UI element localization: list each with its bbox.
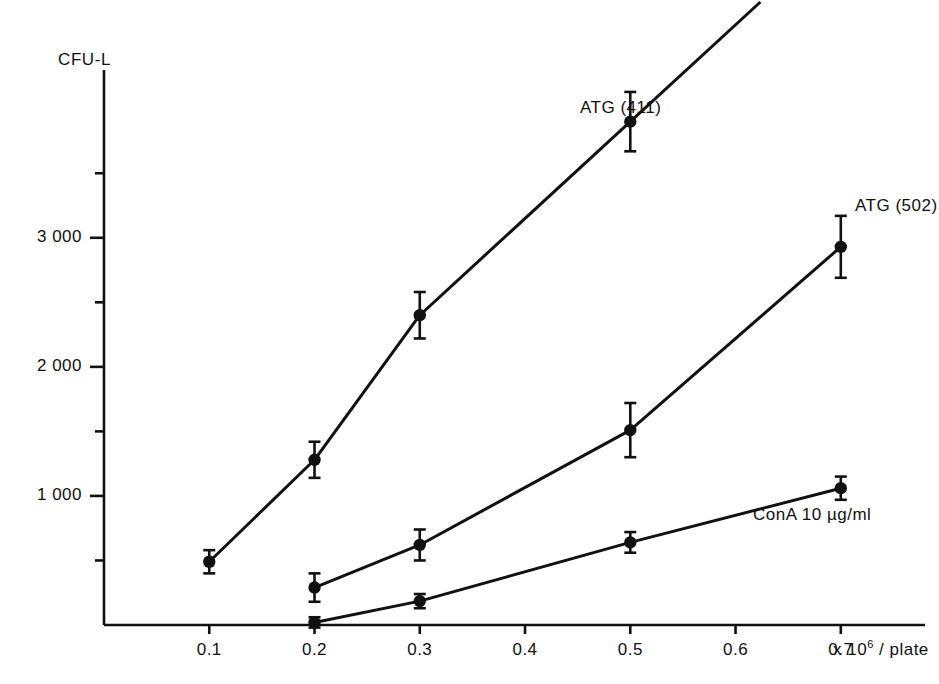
- series-segment: [630, 247, 841, 430]
- data-point-marker: [624, 424, 636, 436]
- data-point-marker: [624, 536, 636, 548]
- x-tick-label: 0.1: [179, 640, 239, 660]
- series-segment: [315, 315, 420, 460]
- series-label-atg-502: ATG (502): [855, 196, 938, 216]
- x-axis-unit-label: x 106 / plate: [833, 640, 929, 660]
- data-point-marker: [414, 595, 426, 607]
- y-tick-label: 2 000: [12, 356, 82, 376]
- data-point-marker: [414, 539, 426, 551]
- data-point-marker: [414, 309, 426, 321]
- x-tick-label: 0.5: [600, 640, 660, 660]
- y-tick-label: 1 000: [12, 485, 82, 505]
- series-layer: [203, 2, 847, 629]
- x-tick-label: 0.2: [285, 640, 345, 660]
- data-point-marker: [203, 556, 215, 568]
- series-1: [203, 2, 760, 573]
- data-point-marker: [835, 482, 847, 494]
- data-point-marker: [835, 241, 847, 253]
- series-segment: [420, 542, 631, 601]
- series-segment: [420, 122, 631, 316]
- x-axis-unit-exponent: 6: [867, 638, 874, 650]
- series-label-cona: ConA 10 µg/ml: [753, 505, 871, 525]
- series-2: [308, 216, 847, 602]
- series-segment: [420, 430, 631, 545]
- data-point-marker: [308, 581, 320, 593]
- series-segment: [315, 601, 420, 622]
- data-point-marker: [308, 454, 320, 466]
- y-tick-label: 3 000: [12, 227, 82, 247]
- series-label-atg-411: ATG (411): [580, 98, 661, 118]
- x-axis-unit-prefix: x 10: [833, 640, 867, 659]
- x-axis-unit-suffix: / plate: [879, 640, 929, 659]
- data-point-marker: [308, 616, 320, 628]
- y-axis-title: CFU-L: [58, 50, 111, 70]
- series-3: [308, 477, 847, 629]
- chart-figure: CFU-L 1 0002 0003 000 0.10.20.30.40.50.6…: [0, 0, 939, 684]
- x-tick-label: 0.4: [495, 640, 555, 660]
- series-segment: [209, 460, 314, 562]
- x-tick-label: 0.3: [390, 640, 450, 660]
- plot-canvas: [0, 0, 939, 684]
- x-tick-label: 0.6: [706, 640, 766, 660]
- series-segment: [315, 545, 420, 588]
